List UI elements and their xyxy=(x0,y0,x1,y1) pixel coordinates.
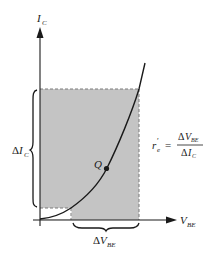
x-axis-arrow-icon xyxy=(166,217,177,224)
svg-text:BE: BE xyxy=(107,241,116,249)
q-point-marker xyxy=(104,166,109,171)
svg-text:′: ′ xyxy=(157,137,159,146)
y-axis-label: I C xyxy=(36,12,47,27)
diagram-canvas: Q I C V BE Δ I C Δ V BE r ′ e = Δ V BE Δ… xyxy=(0,0,211,255)
x-axis-label: V BE xyxy=(180,214,196,229)
svg-text:Δ: Δ xyxy=(181,147,188,158)
formula: r ′ e = Δ V BE Δ I C xyxy=(152,131,203,159)
delta-ic-brace xyxy=(30,90,37,207)
shaded-region xyxy=(40,89,139,220)
svg-text:C: C xyxy=(192,153,197,159)
delta-vbe-brace xyxy=(73,223,139,231)
delta-ic-label: Δ I C xyxy=(12,144,29,159)
svg-text:e: e xyxy=(157,146,160,154)
delta-vbe-label: Δ V BE xyxy=(93,234,116,249)
q-point-label: Q xyxy=(94,158,102,170)
svg-text:C: C xyxy=(42,19,47,27)
svg-text:=: = xyxy=(165,139,171,151)
svg-text:BE: BE xyxy=(191,137,199,143)
svg-text:C: C xyxy=(24,151,29,159)
svg-text:BE: BE xyxy=(187,221,196,229)
y-axis-arrow-icon xyxy=(37,27,44,38)
svg-text:Δ: Δ xyxy=(178,131,185,142)
